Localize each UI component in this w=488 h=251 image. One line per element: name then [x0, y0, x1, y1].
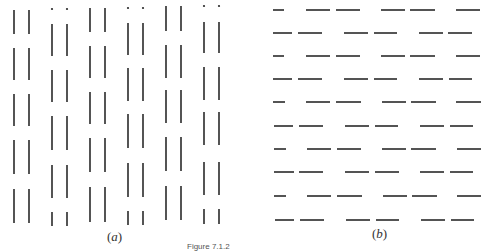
dot-marker	[142, 7, 144, 9]
dot-marker	[218, 5, 220, 7]
panel-a-vertical-lines	[14, 5, 220, 226]
panel-b-label: (b)	[372, 226, 387, 242]
dot-marker	[203, 5, 205, 7]
dot-marker	[51, 8, 53, 10]
panel-b-horizontal-dashes	[273, 10, 481, 220]
figure-caption: Figure 7.1.2	[187, 242, 230, 251]
dot-marker	[66, 8, 68, 10]
dot-marker	[127, 7, 129, 9]
panel-a-label: (a)	[107, 229, 122, 245]
